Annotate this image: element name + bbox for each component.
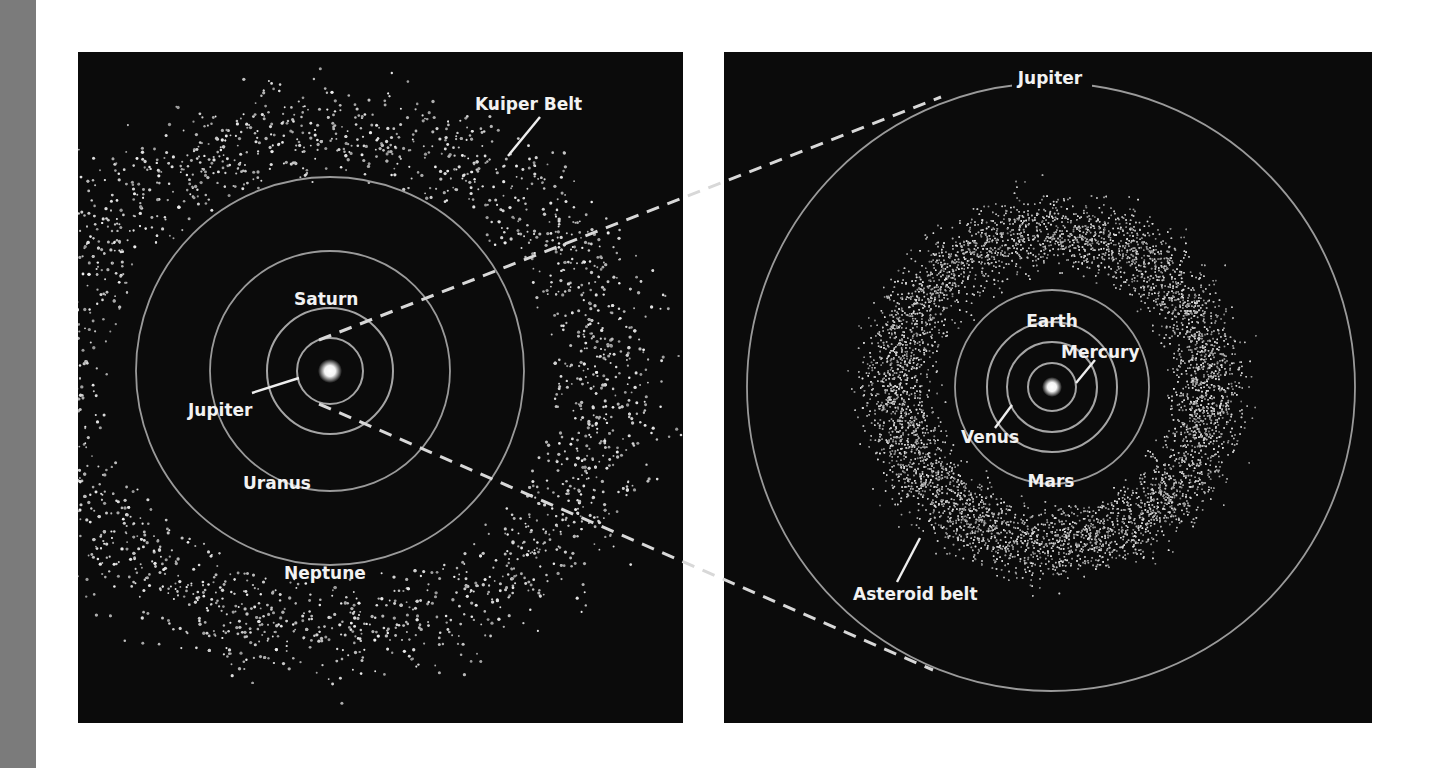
uranus-label: Uranus [243, 473, 311, 493]
neptune-label: Neptune [284, 563, 366, 583]
solar-system-diagram: Kuiper Belt Saturn Jupiter Uranus Neptun… [0, 0, 1432, 768]
asteroid-belt-label: Asteroid belt [853, 584, 978, 604]
jupiter-label-left: Jupiter [187, 400, 253, 420]
jupiter-label-right: Jupiter [1017, 68, 1083, 88]
mercury-label: Mercury [1061, 342, 1139, 362]
left-panel: Kuiper Belt Saturn Jupiter Uranus Neptun… [0, 52, 691, 723]
right-panel: Jupiter Earth Mercury Venus Mars Asteroi… [724, 52, 1372, 723]
venus-label: Venus [961, 427, 1019, 447]
sun-icon [318, 359, 342, 383]
left-panel-background [78, 52, 683, 723]
saturn-label: Saturn [294, 289, 358, 309]
earth-label: Earth [1026, 311, 1078, 331]
sun-icon-right [1042, 377, 1062, 397]
mars-label: Mars [1028, 471, 1075, 491]
kuiper-belt-label: Kuiper Belt [475, 94, 582, 114]
